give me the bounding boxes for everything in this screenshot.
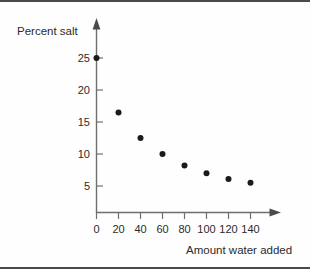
data-point <box>160 151 166 157</box>
data-point <box>116 109 122 115</box>
data-point <box>182 163 188 169</box>
y-axis-arrow-icon <box>93 18 101 30</box>
x-tick-label-20: 20 <box>112 223 124 235</box>
x-tick-label-0: 0 <box>93 223 99 235</box>
chart-figure: Percent salt Amount water added 25 20 15… <box>0 0 310 269</box>
x-axis-tick-labels: 0 20 40 60 80 100 120 140 <box>93 223 259 235</box>
data-point <box>204 170 210 176</box>
x-tick-label-60: 60 <box>156 223 168 235</box>
data-point <box>226 176 232 182</box>
y-axis-ticks <box>97 58 104 186</box>
y-tick-label-25: 25 <box>78 52 90 64</box>
x-axis-ticks <box>97 213 251 220</box>
y-tick-label-20: 20 <box>78 84 90 96</box>
data-point-group <box>94 55 254 186</box>
x-tick-label-40: 40 <box>134 223 146 235</box>
x-tick-label-80: 80 <box>178 223 190 235</box>
data-point <box>248 180 254 186</box>
x-axis-label: Amount water added <box>186 244 292 256</box>
y-tick-label-5: 5 <box>84 180 90 192</box>
y-axis-label: Percent salt <box>17 25 79 37</box>
x-tick-label-140: 140 <box>241 223 259 235</box>
x-tick-label-120: 120 <box>219 223 237 235</box>
x-tick-label-100: 100 <box>197 223 215 235</box>
y-tick-label-10: 10 <box>78 148 90 160</box>
x-axis-arrow-icon <box>270 209 282 217</box>
scatter-plot: Percent salt Amount water added 25 20 15… <box>0 2 310 269</box>
data-point <box>94 55 100 61</box>
y-tick-label-15: 15 <box>78 116 90 128</box>
y-axis-tick-labels: 25 20 15 10 5 <box>78 52 90 192</box>
data-point <box>138 135 144 141</box>
